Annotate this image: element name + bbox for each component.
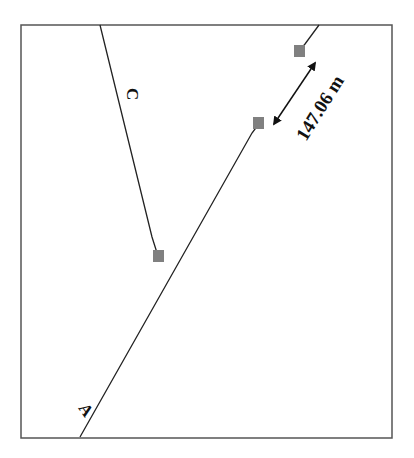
marker-a-lower [253, 117, 264, 129]
line-c [100, 25, 158, 256]
gap-distance-label: 147.06 m [292, 71, 348, 144]
line-c-label: C [123, 88, 142, 100]
marker-a-upper [294, 45, 305, 57]
line-a [80, 25, 319, 437]
line-a-label: A [75, 399, 98, 421]
fault-gap-diagram: 147.06 m C A [0, 0, 414, 458]
marker-c-end [153, 250, 164, 262]
